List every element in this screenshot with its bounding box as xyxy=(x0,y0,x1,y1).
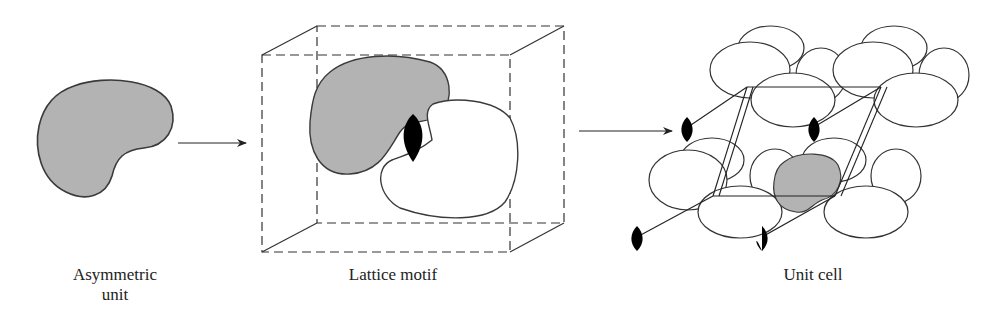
label-asymmetric-unit-line1: Asymmetric xyxy=(63,265,167,285)
label-asymmetric-unit: Asymmetric unit xyxy=(63,265,167,305)
crystal-structure-diagram: Asymmetric unit Lattice motif Unit cell xyxy=(0,0,988,314)
label-unit-cell: Unit cell xyxy=(763,265,863,285)
label-lattice-motif: Lattice motif xyxy=(333,265,453,285)
label-asymmetric-unit-line2: unit xyxy=(63,285,167,305)
asymmetric-unit-shape xyxy=(37,80,173,197)
